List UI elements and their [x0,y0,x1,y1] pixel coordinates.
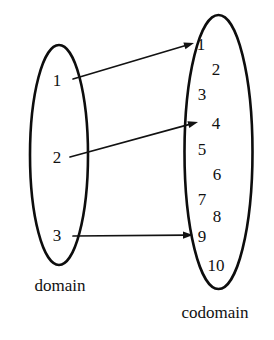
codomain-element-7: 7 [198,191,207,208]
arrow-shaft [73,45,187,79]
codomain-caption: codomain [181,304,248,321]
codomain-ellipse [185,15,253,289]
codomain-element-6: 6 [213,166,222,183]
codomain-element-3: 3 [198,86,207,103]
codomain-element-10: 10 [208,257,225,274]
codomain-element-5: 5 [198,141,207,158]
arrow-shaft [73,235,186,236]
set-shapes [30,15,253,289]
arrow-1-to-1 [73,42,194,79]
codomain-element-2: 2 [212,61,221,78]
mapping-arrows [70,42,198,238]
codomain-element-1: 1 [197,36,206,53]
codomain-element-4: 4 [212,115,221,132]
arrow-2-to-4 [70,121,198,157]
domain-element-1: 1 [53,72,62,89]
domain-element-2: 2 [53,149,62,166]
arrow-3-to-9 [73,231,193,238]
function-mapping-diagram: 123 12345678910 domain codomain [0,0,274,340]
codomain-element-8: 8 [213,208,222,225]
arrow-head-icon [183,42,194,49]
codomain-element-9: 9 [198,228,207,245]
domain-caption: domain [35,277,86,294]
domain-element-3: 3 [53,227,62,244]
